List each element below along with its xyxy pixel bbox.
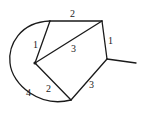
weight-label-ab: 2: [70, 8, 75, 19]
weight-label-ac: 1: [33, 39, 38, 50]
edge-c-b: [35, 21, 102, 63]
edge-d-f: [107, 59, 136, 63]
edge-c-e: [35, 63, 71, 100]
weight-label-ce: 2: [46, 83, 51, 94]
weight-label-ed: 3: [89, 79, 94, 90]
weight-label-arc: 4: [26, 87, 31, 98]
weight-label-cb: 3: [71, 43, 76, 54]
graph-diagram: 2 1 3 1 2 3 4: [0, 0, 148, 119]
weight-label-bd: 1: [108, 35, 113, 46]
vertex-dot: [33, 61, 36, 64]
edge-arc-a-e: [10, 21, 71, 102]
edge-b-d: [102, 21, 107, 59]
